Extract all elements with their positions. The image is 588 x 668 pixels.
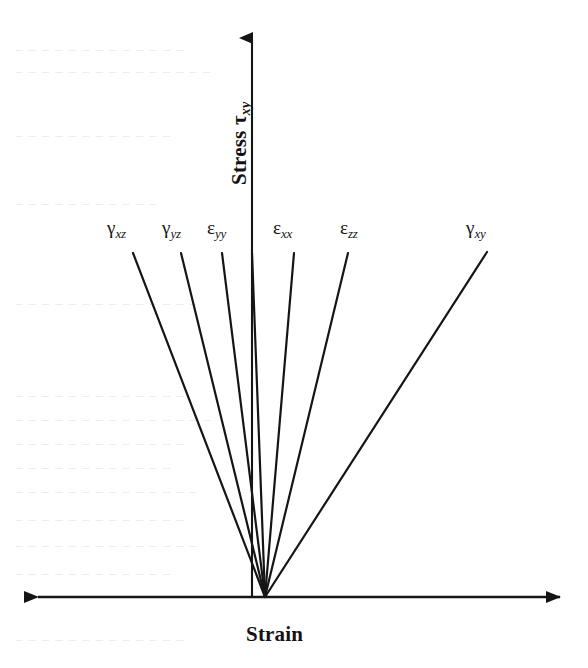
y-axis-title: Stress τxy	[227, 102, 254, 185]
series-label-epsilon-xx: εxx	[273, 218, 292, 240]
series-label-gamma-xy: γxy	[466, 218, 486, 240]
series-label-subscript: xz	[115, 226, 125, 241]
x-axis-title: Strain	[246, 622, 303, 647]
plot-canvas	[0, 0, 588, 668]
series-label-gamma-xz: γxz	[107, 218, 126, 240]
series-label-subscript: yy	[215, 226, 226, 241]
data-ray-epsilon-xx	[265, 253, 294, 597]
stress-strain-figure: − − − − − − − − − − − − −− − − − − − − −…	[0, 0, 588, 668]
data-ray-epsilon-zz	[265, 253, 348, 597]
y-axis-title-word: Stress	[227, 125, 251, 185]
series-label-subscript: zz	[348, 226, 358, 241]
series-label-symbol: ε	[273, 217, 281, 238]
y-axis-title-subscript: xy	[238, 102, 253, 116]
data-ray-group	[133, 252, 487, 597]
series-label-epsilon-zz: εzz	[340, 218, 358, 240]
series-label-subscript: xx	[281, 226, 292, 241]
data-ray-gamma-xy	[265, 252, 487, 597]
axes-group	[38, 38, 560, 597]
series-label-symbol: ε	[340, 217, 348, 238]
series-label-subscript: xy	[474, 226, 485, 241]
series-label-subscript: yz	[170, 226, 180, 241]
data-ray-gamma-xz	[133, 253, 265, 597]
series-label-epsilon-yy: εyy	[207, 218, 226, 240]
series-label-symbol: ε	[207, 217, 215, 238]
y-axis-title-symbol: τ	[227, 115, 251, 125]
series-label-gamma-yz: γyz	[162, 218, 181, 240]
